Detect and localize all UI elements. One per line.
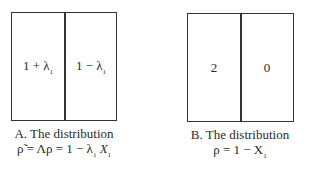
- panel-a-caption: A. The distribution ρ̃ = Λρ = 1 − λ1 X1: [0, 126, 128, 163]
- panel-b-caption: B. The distribution ρ = 1 − X1: [176, 127, 304, 164]
- panel-a-divider: [64, 13, 66, 120]
- panel-b-square: 2 0: [187, 13, 294, 122]
- panel-b-caption-formula: ρ = 1 − X1: [176, 142, 304, 164]
- panel-b-caption-title: B. The distribution: [176, 127, 304, 142]
- panel-a-right-cell-value: 1 − λ1: [76, 58, 106, 76]
- panel-b-left-cell-value: 2: [211, 60, 218, 76]
- panel-a-caption-title: A. The distribution: [0, 126, 128, 141]
- panel-b-divider: [240, 14, 242, 121]
- panel-a-caption-formula: ρ̃ = Λρ = 1 − λ1 X1: [0, 141, 128, 163]
- panel-a-left-cell-value: 1 + λ1: [23, 58, 53, 76]
- panel-a-square: 1 + λ1 1 − λ1: [11, 12, 117, 121]
- panel-b-right-cell-value: 0: [264, 60, 271, 76]
